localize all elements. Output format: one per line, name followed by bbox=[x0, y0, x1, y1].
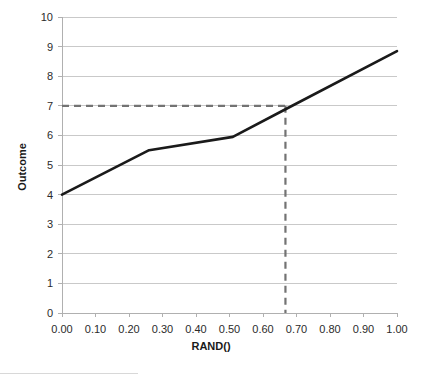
x-tick-label: 0.10 bbox=[85, 323, 106, 335]
x-tick-label: 1.00 bbox=[386, 323, 407, 335]
x-axis-tick-labels: 0.000.100.200.300.400.500.600.700.800.90… bbox=[51, 323, 407, 335]
x-tick-label: 0.80 bbox=[319, 323, 340, 335]
x-tick-label: 0.30 bbox=[152, 323, 173, 335]
y-axis-tick-labels: 012345678910 bbox=[41, 11, 53, 319]
y-tick-label: 8 bbox=[47, 70, 53, 82]
x-tick-label: 0.20 bbox=[118, 323, 139, 335]
x-tick-label: 0.00 bbox=[51, 323, 72, 335]
x-tick-label: 0.60 bbox=[252, 323, 273, 335]
y-tick-label: 4 bbox=[47, 189, 53, 201]
y-tick-label: 1 bbox=[47, 277, 53, 289]
y-tick-label: 2 bbox=[47, 248, 53, 260]
x-axis-title: RAND() bbox=[191, 340, 230, 352]
footer-divider bbox=[0, 373, 138, 374]
y-tick-label: 6 bbox=[47, 129, 53, 141]
data-series-line bbox=[62, 51, 397, 195]
data-series-group bbox=[62, 51, 397, 195]
y-tick-label: 10 bbox=[41, 11, 53, 23]
y-axis-title: Outcome bbox=[16, 143, 28, 191]
x-tick-label: 0.70 bbox=[286, 323, 307, 335]
x-tick-label: 0.90 bbox=[353, 323, 374, 335]
line-chart: 012345678910 0.000.100.200.300.400.500.6… bbox=[0, 0, 422, 377]
gridlines-group bbox=[62, 17, 397, 283]
x-tick-label: 0.40 bbox=[185, 323, 206, 335]
chart-container: 012345678910 0.000.100.200.300.400.500.6… bbox=[0, 0, 422, 377]
reference-lines-group bbox=[62, 106, 285, 313]
y-tick-label: 5 bbox=[47, 159, 53, 171]
x-tick-label: 0.50 bbox=[219, 323, 240, 335]
y-tick-label: 3 bbox=[47, 218, 53, 230]
x-tick-marks-group bbox=[58, 17, 397, 317]
y-tick-label: 7 bbox=[47, 100, 53, 112]
y-tick-label: 9 bbox=[47, 41, 53, 53]
y-tick-label: 0 bbox=[47, 307, 53, 319]
